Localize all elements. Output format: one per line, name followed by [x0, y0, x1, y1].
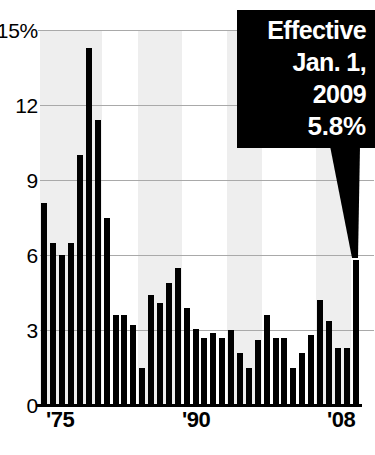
- y-axis-tick-label: 6: [27, 245, 38, 266]
- bar: [237, 353, 243, 406]
- bar: [184, 308, 190, 406]
- bar: [59, 255, 65, 405]
- x-axis-tick-label: '75: [46, 409, 74, 431]
- bar: [290, 368, 296, 406]
- bar: [157, 303, 163, 406]
- bar: [148, 295, 154, 405]
- bar: [255, 340, 261, 405]
- callout-line-2: Jan. 1,: [243, 47, 366, 79]
- x-axis-tick-label: '90: [182, 409, 210, 431]
- bar: [335, 348, 341, 406]
- bar: [113, 315, 119, 405]
- bar: [219, 338, 225, 406]
- bar: [326, 321, 332, 405]
- bar: [246, 368, 252, 406]
- bar: [210, 333, 216, 406]
- bar: [104, 218, 110, 406]
- annotation-callout: Effective Jan. 1, 2009 5.8%: [237, 10, 375, 148]
- bar: [299, 353, 305, 406]
- bar: [193, 329, 199, 405]
- callout-value: 5.8%: [243, 110, 366, 143]
- bar: [264, 315, 270, 405]
- y-axis-tick-label: 3: [27, 320, 38, 341]
- bar: [228, 330, 234, 405]
- bar: [139, 368, 145, 406]
- bar: [201, 338, 207, 406]
- bar: [344, 348, 350, 406]
- y-axis-labels: 15%129630: [0, 0, 38, 455]
- bar: [86, 48, 92, 406]
- bar: [130, 325, 136, 405]
- bar: [41, 203, 47, 406]
- bar: [50, 243, 56, 406]
- bar: [353, 260, 359, 405]
- bar: [317, 300, 323, 405]
- bar: [166, 283, 172, 406]
- callout-line-1: Effective: [243, 15, 366, 47]
- callout-pointer-icon: [330, 146, 366, 258]
- bar: [68, 243, 74, 406]
- y-axis-tick-label: 12: [15, 95, 38, 116]
- y-axis-tick-label: 9: [27, 170, 38, 191]
- bar: [175, 268, 181, 406]
- callout-line-3: 2009: [243, 79, 366, 111]
- y-axis-tick-label: 15%: [0, 20, 38, 41]
- bar: [121, 315, 127, 405]
- bar: [273, 338, 279, 406]
- bar: [308, 335, 314, 405]
- chart-container: 15%129630 '75'90'08 Effective Jan. 1, 20…: [0, 0, 375, 455]
- bar: [95, 120, 101, 405]
- x-axis-tick-label: '08: [327, 409, 355, 431]
- bar: [77, 155, 83, 405]
- bar: [281, 338, 287, 406]
